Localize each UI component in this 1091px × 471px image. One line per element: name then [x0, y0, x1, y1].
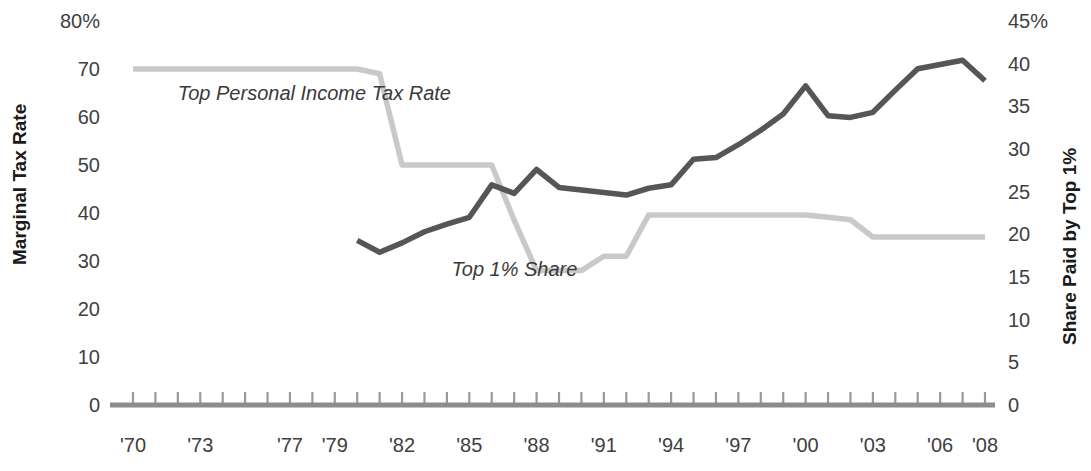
x-axis-tick-label: '79 [322, 434, 348, 456]
left-axis-tick-label: 60 [78, 106, 100, 128]
left-axis-tick-label: 0 [89, 394, 100, 416]
x-axis-tick-label: '88 [524, 434, 550, 456]
chart-container: 80%706050403020100 45%4035302520151050 '… [0, 0, 1091, 471]
left-axis-tick-labels: 80%706050403020100 [60, 10, 100, 416]
series-inline-label: Top Personal Income Tax Rate [178, 82, 451, 104]
x-axis-tick-label: '08 [972, 434, 998, 456]
x-axis-tick-labels: '70'73'77'79'82'85'88'91'94'97'00'03'06'… [120, 434, 998, 456]
right-axis-tick-labels: 45%4035302520151050 [1008, 10, 1048, 416]
x-axis-tick-marks [133, 392, 985, 403]
x-axis-tick-label: '06 [927, 434, 953, 456]
left-axis-tick-label: 20 [78, 298, 100, 320]
left-axis-tick-label: 30 [78, 250, 100, 272]
x-axis-tick-label: '77 [277, 434, 303, 456]
right-axis-tick-label: 40 [1008, 53, 1030, 75]
right-axis-tick-label: 10 [1008, 309, 1030, 331]
series-inline-label: Top 1% Share [451, 258, 577, 280]
right-axis-title: Share Paid by Top 1% [1059, 148, 1080, 345]
series-line [357, 60, 985, 252]
left-axis-title: Marginal Tax Rate [9, 104, 30, 265]
right-axis-tick-label: 25 [1008, 181, 1030, 203]
x-axis-tick-label: '70 [120, 434, 146, 456]
x-axis-tick-label: '73 [187, 434, 213, 456]
left-axis-tick-label: 50 [78, 154, 100, 176]
x-axis-tick-label: '94 [658, 434, 684, 456]
x-axis-tick-label: '91 [591, 434, 617, 456]
right-axis-tick-label: 35 [1008, 95, 1030, 117]
left-axis-tick-label: 80% [60, 10, 100, 32]
right-axis-tick-label: 5 [1008, 351, 1019, 373]
x-axis-tick-label: '00 [793, 434, 819, 456]
right-axis-tick-label: 15 [1008, 266, 1030, 288]
x-axis-tick-label: '85 [456, 434, 482, 456]
left-axis-tick-label: 40 [78, 202, 100, 224]
right-axis-tick-label: 45% [1008, 10, 1048, 32]
left-axis-tick-label: 70 [78, 58, 100, 80]
left-axis-tick-label: 10 [78, 346, 100, 368]
line-chart: 80%706050403020100 45%4035302520151050 '… [0, 0, 1091, 471]
x-axis-tick-label: '97 [725, 434, 751, 456]
right-axis-tick-label: 20 [1008, 223, 1030, 245]
x-axis-tick-label: '03 [860, 434, 886, 456]
right-axis-tick-label: 0 [1008, 394, 1019, 416]
x-axis-tick-label: '82 [389, 434, 415, 456]
right-axis-tick-label: 30 [1008, 138, 1030, 160]
